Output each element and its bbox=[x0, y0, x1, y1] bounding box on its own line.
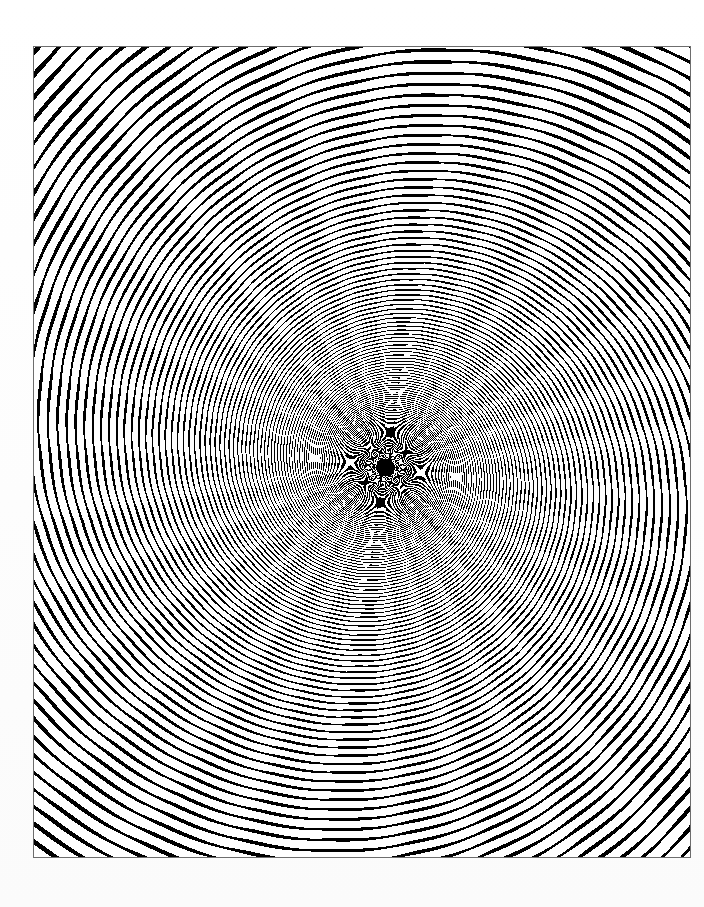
fractal-plate-frame bbox=[33, 46, 691, 858]
fractal-image-canvas bbox=[34, 47, 690, 857]
page-root: A monochrome fractal plate. Thousands of… bbox=[0, 0, 704, 907]
